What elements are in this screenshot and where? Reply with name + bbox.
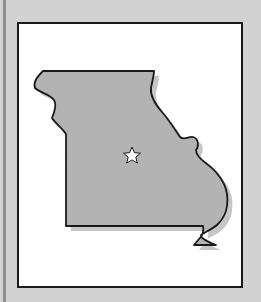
missouri-map [0,0,261,302]
